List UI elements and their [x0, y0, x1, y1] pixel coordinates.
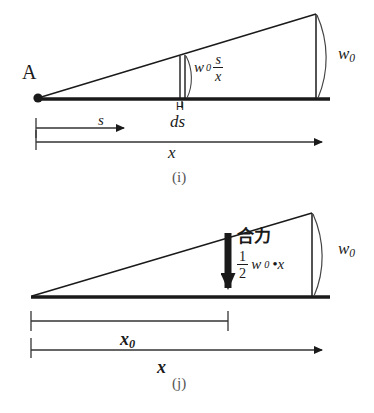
panel-i-w0-subscript: 0	[349, 52, 355, 65]
panel-i-w0-base: w	[338, 44, 349, 63]
diagram-svg	[0, 0, 374, 413]
panel-i-hypotenuse	[38, 14, 316, 98]
panel-j-resultant-w-subscript: 0	[264, 260, 269, 270]
panel-j-dim-x-label: x	[157, 358, 166, 376]
panel-j-right-brace-arc	[313, 214, 322, 296]
panel-j-dim-x0-label: x0	[120, 330, 135, 350]
figure-root: A w0 w0 s x H ds s x (i) w0 合力 1 2 w0•x …	[0, 0, 374, 413]
panel-i-strip-width-label: ds	[170, 113, 185, 130]
panel-j-caption: (j)	[172, 376, 186, 391]
panel-i-strip-fraction: s x	[213, 52, 223, 84]
panel-i-right-brace-arc	[317, 15, 326, 98]
panel-i-apex-dot	[33, 93, 42, 102]
panel-j-dim-x0-base: x	[120, 329, 129, 349]
panel-i-strip-magnitude-label: w0 s x	[194, 52, 223, 84]
panel-j-dim-x0-subscript: 0	[129, 337, 135, 351]
panel-j-resultant-w-base: w	[251, 257, 261, 272]
panel-i-w0-label: w0	[338, 45, 355, 64]
panel-j-graphics	[31, 213, 330, 358]
panel-j-resultant-w-tail: •x	[272, 257, 284, 272]
panel-j-w0-subscript: 0	[349, 247, 355, 260]
panel-i-dim-s-label: s	[98, 113, 104, 128]
panel-i-strip-w-subscript: 0	[206, 63, 211, 73]
panel-j-resultant-expression: 1 2 w0•x	[237, 249, 284, 281]
panel-j-w0-base: w	[338, 239, 349, 258]
panel-j-resultant-fraction-numerator: 1	[237, 249, 248, 264]
panel-i-caption: (i)	[172, 170, 186, 185]
panel-i-apex-label: A	[22, 62, 36, 82]
panel-j-resultant-fraction: 1 2	[237, 249, 248, 281]
panel-i-strip-fraction-numerator: s	[214, 52, 224, 67]
panel-j-resultant-label: 合力	[237, 228, 271, 245]
panel-i-strip-brace-arc	[186, 56, 191, 98]
panel-i-strip-fraction-denominator: x	[213, 67, 223, 83]
panel-i-strip-tick-label: H	[176, 101, 184, 112]
panel-j-resultant-fraction-denominator: 2	[237, 264, 248, 280]
panel-j-w0-label: w0	[338, 240, 355, 259]
panel-i-dim-x-label: x	[168, 144, 176, 161]
panel-i-strip-w-base: w	[194, 60, 204, 75]
